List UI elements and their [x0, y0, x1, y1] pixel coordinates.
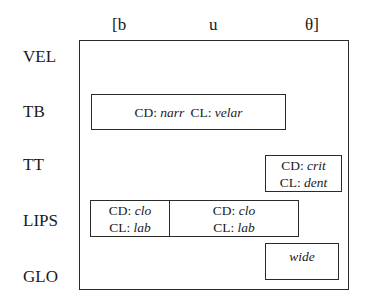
gesture-box-tt: CD: crit CL: dent [265, 155, 342, 192]
gesture-box-tb: CD: narr CL: velar [91, 94, 286, 130]
tt-cd: CD: crit [266, 157, 341, 174]
glo-value: wide [266, 248, 338, 265]
lips-2-cl: CL: lab [170, 219, 298, 236]
tb-cl-value: velar [215, 105, 243, 120]
tb-cd-key: CD: [134, 105, 157, 120]
tt-cl-key: CL: [280, 175, 301, 190]
tier-label-tb: TB [23, 102, 45, 122]
lips-2-cl-value: lab [238, 220, 255, 235]
tt-cd-value: crit [307, 158, 326, 173]
lips-2-cd-value: clo [239, 203, 256, 218]
tt-cd-key: CD: [281, 158, 304, 173]
lips-1-cd-key: CD: [109, 203, 132, 218]
tb-cd: CD: narr [134, 104, 184, 121]
segment-label-theta: θ] [305, 15, 319, 35]
lips-1-cl-key: CL: [109, 220, 130, 235]
tt-cl-value: dent [304, 175, 327, 190]
segment-label-b: [b [112, 15, 126, 35]
segment-label-u: u [209, 15, 218, 35]
lips-1-cd-value: clo [135, 203, 152, 218]
lips-2-cd: CD: clo [170, 202, 298, 219]
lips-1-cl: CL: lab [91, 219, 169, 236]
gesture-box-glo: wide [265, 243, 339, 280]
tier-label-vel: VEL [23, 47, 56, 67]
lips-2-cd-key: CD: [213, 203, 236, 218]
tier-label-glo: GLO [23, 267, 58, 287]
lips-1-cd: CD: clo [91, 202, 169, 219]
tier-label-tt: TT [23, 155, 44, 175]
tt-cl: CL: dent [266, 174, 341, 191]
tb-cl: CL: velar [190, 104, 242, 121]
gesture-box-lips-2: CD: clo CL: lab [169, 200, 299, 237]
tier-label-lips: LIPS [23, 211, 58, 231]
tb-cl-key: CL: [190, 105, 211, 120]
tb-cd-value: narr [160, 105, 184, 120]
lips-2-cl-key: CL: [213, 220, 234, 235]
lips-1-cl-value: lab [134, 220, 151, 235]
gesture-box-lips-1: CD: clo CL: lab [90, 200, 170, 237]
